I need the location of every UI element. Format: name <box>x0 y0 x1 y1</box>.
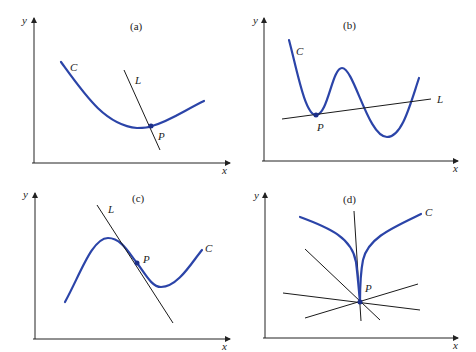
line-label: L <box>107 203 114 215</box>
y-axis-label: y <box>21 14 27 26</box>
point-p <box>358 300 363 305</box>
x-axis-label: x <box>221 340 227 352</box>
point-label: P <box>364 282 372 294</box>
x-axis-label: x <box>452 162 458 174</box>
y-axis-label: y <box>22 188 28 200</box>
point-p <box>135 261 140 266</box>
point-p <box>149 124 154 129</box>
point-label: P <box>157 130 165 142</box>
panel-b: y x (b) C L P <box>252 14 458 174</box>
line-label: L <box>436 93 443 105</box>
curve-c <box>289 40 419 137</box>
y-axis-label: y <box>252 14 258 26</box>
panel-title: (c) <box>132 192 145 205</box>
curve-label: C <box>205 242 213 254</box>
y-axis-label: y <box>253 189 259 201</box>
panel-title: (a) <box>130 20 143 33</box>
panel-c: y x (c) L P C <box>22 188 230 352</box>
panel-a: y x (a) C L P <box>21 14 230 176</box>
tangent-lines-figure: y x (a) C L P y x (b) C L P y x (c) L P … <box>0 0 476 352</box>
x-axis-label: x <box>452 339 458 351</box>
curve-label: C <box>425 206 433 218</box>
curve-label: C <box>70 61 78 73</box>
curve-label: C <box>296 45 304 57</box>
curve-c <box>61 62 204 128</box>
panel-d: y x (d) C P <box>253 189 458 351</box>
panel-title: (b) <box>343 19 356 32</box>
curve-c <box>65 238 202 302</box>
x-axis-label: x <box>221 164 227 176</box>
point-label: P <box>316 121 324 133</box>
line-l <box>124 70 160 150</box>
line-shallow-down <box>283 293 420 310</box>
point-p <box>314 113 319 118</box>
point-label: P <box>142 253 150 265</box>
line-label: L <box>134 74 141 86</box>
panel-title: (d) <box>343 193 356 206</box>
curve-c-left-branch <box>300 217 360 302</box>
